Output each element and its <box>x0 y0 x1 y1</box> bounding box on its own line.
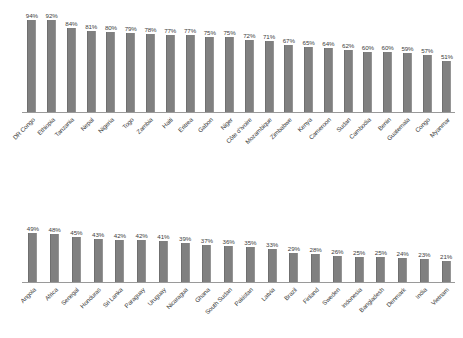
bar <box>225 37 234 112</box>
bar-column: 25% <box>370 182 392 282</box>
x-tick-label: Togo <box>120 116 134 130</box>
chart-page: 94%92%84%81%80%79%78%77%77%75%75%72%71%6… <box>0 0 463 338</box>
x-tick-column: Eritrea <box>180 114 200 164</box>
x-tick-column: Pakistan <box>240 284 262 334</box>
bar-column: 33% <box>261 182 283 282</box>
bar <box>181 243 190 282</box>
bar-value-label: 77% <box>184 27 196 34</box>
bar-column: 79% <box>121 12 141 112</box>
bar-column: 57% <box>417 12 437 112</box>
bar <box>245 40 254 112</box>
bar-value-label: 72% <box>243 32 255 39</box>
x-tick-label: Sudan <box>335 116 352 133</box>
x-tick-column: Vietnam <box>435 284 457 334</box>
x-tick-label: Africa <box>43 286 59 302</box>
x-tick-column: Finland <box>305 284 327 334</box>
x-tick-column: Nicaragua <box>174 284 196 334</box>
bar <box>355 257 364 282</box>
bar-value-label: 64% <box>322 40 334 47</box>
x-tick-column: Denmark <box>392 284 414 334</box>
x-tick-column: Paraguay <box>131 284 153 334</box>
bar-value-label: 65% <box>303 39 315 46</box>
x-tick-label: India <box>414 286 428 300</box>
bar-value-label: 77% <box>164 27 176 34</box>
bar-column: 84% <box>62 12 82 112</box>
x-tick-column: Uruguay <box>153 284 175 334</box>
bar-value-label: 23% <box>418 251 430 258</box>
bar <box>94 239 103 282</box>
bar-column: 71% <box>259 12 279 112</box>
bar-value-label: 25% <box>353 249 365 256</box>
bar-value-label: 33% <box>266 241 278 248</box>
bar <box>27 20 36 112</box>
x-tick-label: Benin <box>376 116 392 132</box>
x-tick-label: DR Congo <box>11 116 36 141</box>
bar <box>50 234 59 282</box>
bar-column: 21% <box>435 182 457 282</box>
bar-column: 51% <box>437 12 457 112</box>
bar-value-label: 25% <box>375 249 387 256</box>
x-tick-label: Brazil <box>282 286 297 301</box>
bar-column: 60% <box>378 12 398 112</box>
bar-value-label: 42% <box>136 232 148 239</box>
bar <box>146 34 155 112</box>
bar-column: 28% <box>305 182 327 282</box>
x-tick-column: Latvia <box>261 284 283 334</box>
bar-value-label: 21% <box>440 253 452 260</box>
bar <box>289 253 298 282</box>
bar-column: 35% <box>240 182 262 282</box>
bar <box>383 52 392 112</box>
x-tick-column: Congo <box>417 114 437 164</box>
bar <box>344 50 353 112</box>
x-tick-column: Bangladesh <box>370 284 392 334</box>
bar <box>106 32 115 112</box>
bar-column: 75% <box>200 12 220 112</box>
bar-value-label: 28% <box>310 246 322 253</box>
bar-value-label: 57% <box>421 47 433 54</box>
bar <box>166 35 175 112</box>
bar-value-label: 67% <box>283 37 295 44</box>
x-tick-label: Eritrea <box>177 116 194 133</box>
x-axis-line-top <box>22 112 455 113</box>
bar-value-label: 59% <box>401 45 413 52</box>
bar-value-label: 29% <box>288 245 300 252</box>
bar-value-label: 94% <box>26 12 38 19</box>
bar-value-label: 35% <box>244 239 256 246</box>
bar-value-label: 37% <box>201 237 213 244</box>
bar-column: 26% <box>327 182 349 282</box>
bar-column: 78% <box>141 12 161 112</box>
bar-column: 77% <box>180 12 200 112</box>
bar-column: 45% <box>66 182 88 282</box>
x-tick-column: DR Congo <box>22 114 42 164</box>
x-tick-column: Mozambique <box>259 114 279 164</box>
bar <box>284 45 293 112</box>
bar-value-label: 80% <box>105 24 117 31</box>
x-tick-label: Nepal <box>79 116 95 132</box>
bar <box>268 249 277 282</box>
bar <box>423 55 432 112</box>
bar-value-label: 75% <box>223 29 235 36</box>
bar-value-label: 71% <box>263 33 275 40</box>
bar-value-label: 36% <box>223 238 235 245</box>
bar-value-label: 60% <box>382 44 394 51</box>
x-tick-column: Senegal <box>66 284 88 334</box>
bar-value-label: 41% <box>157 233 169 240</box>
x-tick-column: Brazil <box>283 284 305 334</box>
bar-value-label: 78% <box>144 26 156 33</box>
x-tick-column: Sudan <box>338 114 358 164</box>
bar <box>126 33 135 112</box>
x-tick-column: Ethiopia <box>42 114 62 164</box>
bar-value-label: 51% <box>441 53 453 60</box>
bar <box>442 61 451 112</box>
bar-value-label: 84% <box>65 20 77 27</box>
bar <box>224 246 233 282</box>
bar-column: 67% <box>279 12 299 112</box>
bar <box>28 233 37 282</box>
x-tick-column: Africa <box>44 284 66 334</box>
x-tick-column: Nepal <box>81 114 101 164</box>
x-tick-column: Cambodia <box>358 114 378 164</box>
bar-value-label: 49% <box>27 225 39 232</box>
bar-value-label: 48% <box>49 226 61 233</box>
bar-value-label: 42% <box>114 232 126 239</box>
bar-column: 29% <box>283 182 305 282</box>
